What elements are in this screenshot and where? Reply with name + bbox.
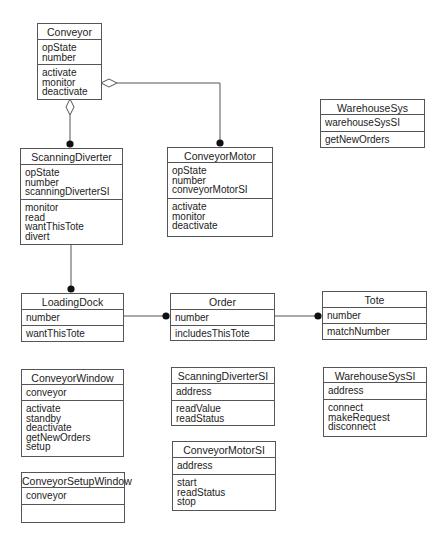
operation: matchNumber [327, 327, 422, 337]
operations: matchNumber [323, 324, 426, 339]
class-name: ConveyorWindow [22, 370, 123, 385]
operation: divert [25, 232, 118, 242]
attributes: number [171, 310, 274, 326]
filled-dot-icon [162, 312, 169, 319]
class-tote: Tote number matchNumber [322, 291, 427, 340]
hollow-diamond-icon [101, 79, 117, 87]
class-name: Tote [323, 292, 426, 308]
attribute: conveyor [26, 388, 119, 398]
attributes: opState number conveyorMotorSI [168, 163, 272, 199]
association-order-tote [274, 312, 322, 319]
operation: deactivate [42, 87, 97, 97]
attribute: warehouseSysSI [325, 118, 420, 128]
class-name: ConveyorMotorSI [173, 442, 275, 458]
operations: monitor read wantThisTote divert [21, 200, 122, 243]
class-conveyorsetupwindow: ConveyorSetupWindow conveyor [21, 472, 125, 523]
operation: deactivate [172, 221, 268, 231]
attributes: conveyor [22, 488, 124, 505]
attributes: opState number scanningDiverterSI [21, 165, 122, 200]
class-diagram-canvas: Conveyor opState number activate monitor… [0, 0, 448, 535]
class-name: Order [171, 294, 274, 310]
attributes: warehouseSysSI [321, 115, 424, 132]
attribute: address [177, 461, 271, 471]
operations: start readStatus stop [173, 475, 275, 509]
class-conveyormotor: ConveyorMotor opState number conveyorMot… [167, 147, 273, 237]
attributes: address [172, 384, 274, 401]
attribute: conveyor [26, 491, 120, 501]
class-name: Conveyor [38, 24, 101, 40]
hollow-diamond-icon [66, 99, 74, 115]
class-name: WarehouseSys [321, 100, 424, 115]
operations: getNewOrders [321, 132, 424, 147]
class-name: ConveyorMotor [168, 148, 272, 163]
class-name: ConveyorSetupWindow [22, 473, 124, 488]
attribute: address [328, 386, 422, 396]
aggregation-conveyor-scanningdiverter [66, 99, 74, 148]
operation: includesThisTote [175, 329, 270, 339]
class-conveyorwindow: ConveyorWindow conveyor activate standby… [21, 369, 124, 457]
class-name: WarehouseSysSI [324, 368, 426, 383]
aggregation-conveyor-conveyormotor [101, 79, 224, 147]
attributes: opState number [38, 40, 101, 65]
attributes: address [173, 458, 275, 475]
class-warehousesys-si: WarehouseSysSI address connect makeReque… [323, 367, 427, 437]
operation: wantThisTote [26, 329, 119, 339]
class-conveyor: Conveyor opState number activate monitor… [37, 23, 102, 100]
operations: activate monitor deactivate [38, 65, 101, 99]
class-name: LoadingDock [22, 294, 123, 310]
operations: readValue readStatus [172, 401, 274, 425]
attribute: number [175, 313, 270, 323]
association-scanningdiverter-loadingdock [67, 244, 74, 293]
attributes: number [323, 308, 426, 324]
operation: stop [177, 497, 271, 507]
operations: wantThisTote [22, 326, 123, 341]
class-name: ScanningDiverterSI [172, 368, 274, 384]
operations: activate monitor deactivate [168, 199, 272, 233]
attribute: address [176, 387, 270, 397]
attribute: number [26, 313, 119, 323]
operation: getNewOrders [325, 135, 420, 145]
operations: activate standby deactivate getNewOrders… [22, 401, 123, 454]
operation: readStatus [176, 414, 270, 424]
class-name: ScanningDiverter [21, 149, 122, 165]
attribute: number [327, 311, 422, 321]
filled-dot-icon [66, 140, 73, 147]
filled-dot-icon [216, 139, 223, 146]
operations [22, 505, 124, 510]
attribute: scanningDiverterSI [25, 187, 118, 197]
operation: disconnect [328, 422, 422, 432]
class-loadingdock: LoadingDock number wantThisTote [21, 293, 124, 342]
operations: connect makeRequest disconnect [324, 400, 426, 434]
attributes: address [324, 383, 426, 400]
filled-dot-icon [314, 312, 321, 319]
attribute: number [42, 53, 97, 63]
operation: setup [26, 442, 119, 452]
class-order: Order number includesThisTote [170, 293, 275, 341]
attributes: number [22, 310, 123, 326]
class-warehousesys: WarehouseSys warehouseSysSI getNewOrders [320, 99, 425, 148]
association-loadingdock-order [123, 312, 170, 319]
class-scanningdiverter-si: ScanningDiverterSI address readValue rea… [171, 367, 275, 426]
filled-dot-icon [67, 285, 74, 292]
operations: includesThisTote [171, 326, 274, 341]
attributes: conveyor [22, 385, 123, 401]
class-scanningdiverter: ScanningDiverter opState number scanning… [20, 148, 123, 245]
class-conveyormotor-si: ConveyorMotorSI address start readStatus… [172, 441, 276, 511]
attribute: conveyorMotorSI [172, 185, 268, 195]
